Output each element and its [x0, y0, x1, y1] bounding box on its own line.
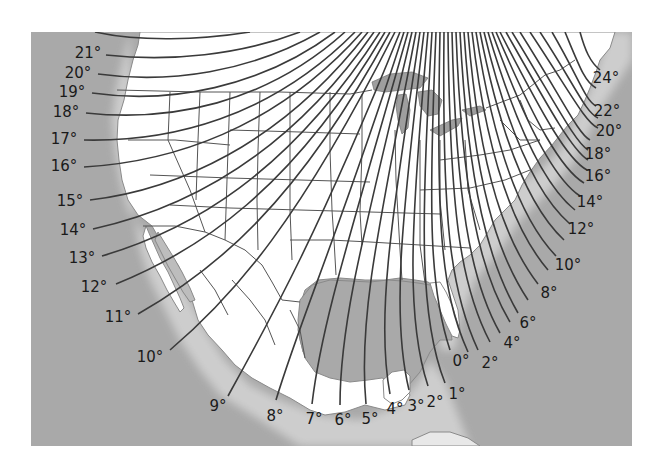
- degree-label: 18°: [53, 103, 80, 121]
- degree-label: 24°: [593, 69, 620, 87]
- degree-label: 17°: [51, 130, 78, 148]
- degree-label: 12°: [568, 220, 595, 238]
- degree-label: 8°: [540, 284, 557, 302]
- degree-label: 15°: [57, 192, 84, 210]
- degree-label: 9°: [209, 397, 226, 415]
- degree-label: 2°: [426, 393, 443, 411]
- isogonic-map: 21°20°19°18°17°16°15°14°13°12°11°10° 9°8…: [0, 0, 656, 470]
- degree-label: 0°: [452, 352, 469, 370]
- degree-label: 20°: [596, 122, 623, 140]
- degree-label: 13°: [69, 249, 96, 267]
- degree-label: 20°: [65, 64, 92, 82]
- degree-label: 11°: [105, 308, 132, 326]
- degree-label: 16°: [585, 167, 612, 185]
- degree-label: 4°: [386, 400, 403, 418]
- degree-label: 6°: [519, 314, 536, 332]
- degree-label: 14°: [60, 221, 87, 239]
- degree-label: 3°: [407, 397, 424, 415]
- degree-label: 10°: [555, 256, 582, 274]
- degree-label: 16°: [51, 157, 78, 175]
- degree-label: 5°: [361, 410, 378, 428]
- degree-label: 4°: [503, 334, 520, 352]
- degree-label: 12°: [81, 278, 108, 296]
- degree-label: 14°: [577, 193, 604, 211]
- degree-label: 18°: [585, 145, 612, 163]
- degree-label: 19°: [59, 83, 86, 101]
- degree-label: 21°: [75, 44, 102, 62]
- degree-label: 7°: [305, 410, 322, 428]
- degree-label: 22°: [594, 102, 621, 120]
- degree-label: 10°: [137, 348, 164, 366]
- degree-label: 2°: [481, 354, 498, 372]
- degree-label: 1°: [448, 385, 465, 403]
- degree-label: 6°: [334, 411, 351, 429]
- degree-label: 8°: [266, 407, 283, 425]
